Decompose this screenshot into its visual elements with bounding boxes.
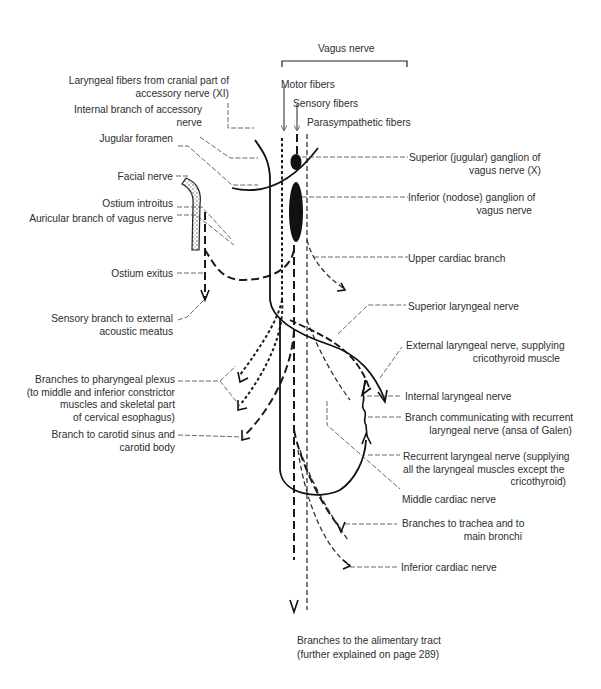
- inferior-ganglion-shape: [289, 182, 303, 242]
- label-recurrent-laryngeal: Recurrent laryngeal nerve (supplying all…: [403, 451, 566, 489]
- label-carotid-sinus: Branch to carotid sinus and carotid body: [52, 429, 175, 454]
- leader-lines: [176, 103, 408, 567]
- label-laryngeal-fibers: Laryngeal fibers from cranial part of ac…: [69, 75, 229, 100]
- vagus-bracket: [282, 61, 407, 67]
- ear-canal: [182, 178, 200, 250]
- label-ostium-introitus: Ostium introitus: [102, 198, 173, 211]
- label-sensory-branch-meatus: Sensory branch to external acoustic meat…: [51, 313, 173, 338]
- motor-fibers-line: [240, 138, 282, 405]
- accessory-nerve-line: [232, 140, 385, 495]
- parasympathetic-fibers-label: Parasympathetic fibers: [307, 117, 411, 130]
- label-middle-cardiac: Middle cardiac nerve: [402, 494, 496, 507]
- label-superior-ganglion: Superior (jugular) ganglion of vagus ner…: [409, 152, 541, 177]
- label-facial-nerve: Facial nerve: [118, 171, 174, 184]
- label-alimentary-tract: Branches to the alimentary tract (furthe…: [297, 634, 441, 662]
- sensory-fibers-line: [205, 134, 340, 560]
- label-inferior-cardiac: Inferior cardiac nerve: [401, 562, 497, 575]
- label-ansa-galen: Branch communicating with recurrent lary…: [405, 412, 572, 437]
- label-upper-cardiac: Upper cardiac branch: [408, 253, 505, 266]
- label-internal-branch-accessory: Internal branch of accessory nerve: [74, 104, 202, 129]
- label-inferior-ganglion: Inferior (nodose) ganglion of vagus nerv…: [408, 192, 532, 217]
- label-internal-laryngeal: Internal laryngeal nerve: [405, 391, 511, 404]
- label-superior-laryngeal: Superior laryngeal nerve: [408, 301, 519, 314]
- vagus-nerve-title: Vagus nerve: [318, 43, 374, 56]
- motor-fibers-label: Motor fibers: [281, 79, 335, 92]
- label-auricular-branch: Auricular branch of vagus nerve: [29, 213, 173, 226]
- label-trachea-bronchi: Branches to trachea and to main bronchi: [402, 518, 522, 543]
- parasympathetic-fibers-line: [298, 134, 350, 610]
- label-ostium-exitus: Ostium exitus: [111, 268, 173, 281]
- label-jugular-foramen: Jugular foramen: [99, 133, 173, 146]
- label-external-laryngeal: External laryngeal nerve, supplying cric…: [406, 340, 560, 365]
- sensory-fibers-label: Sensory fibers: [293, 98, 358, 111]
- label-pharyngeal-plexus: Branches to pharyngeal plexus (to middle…: [27, 374, 175, 424]
